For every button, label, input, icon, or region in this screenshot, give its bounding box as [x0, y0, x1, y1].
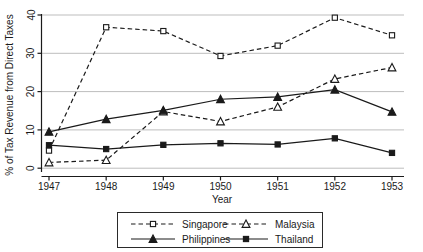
point-singapore-1951 [275, 43, 280, 48]
point-thailand-1950 [218, 141, 223, 146]
data-series-group [45, 15, 396, 166]
y-tick-label-0: 0 [26, 165, 37, 171]
y-tick-labels: 010203040 [26, 9, 37, 171]
point-singapore-1948 [104, 25, 109, 30]
x-tick-label-1953: 1953 [381, 181, 404, 192]
point-thailand-1951 [275, 142, 280, 147]
y-tick-label-40: 40 [26, 9, 37, 21]
point-thailand-1947 [46, 143, 51, 148]
y-tick-label-20: 20 [26, 86, 37, 98]
x-axis-title: Year [212, 194, 233, 205]
legend-label-malaysia: Malaysia [275, 219, 315, 230]
x-tick-label-1947: 1947 [38, 181, 61, 192]
point-thailand-1949 [161, 142, 166, 147]
point-thailand-1948 [104, 146, 109, 151]
point-singapore-1952 [332, 15, 337, 20]
x-tick-label-1948: 1948 [95, 181, 118, 192]
clipped-header-remnant [10, 0, 310, 4]
series-thailand [46, 136, 394, 156]
point-singapore-1947 [46, 148, 51, 153]
x-tick-label-1952: 1952 [324, 181, 347, 192]
legend-label-thailand: Thailand [275, 234, 313, 245]
point-thailand-1953 [389, 150, 394, 155]
point-singapore-1950 [218, 53, 223, 58]
point-malaysia-1953 [388, 63, 396, 70]
chart-figure: 010203040 1947194819491950195119521953 %… [0, 0, 423, 252]
legend-label-philippines: Philippines [182, 234, 230, 245]
y-tick-label-10: 10 [26, 124, 37, 136]
x-tick-marks [49, 177, 392, 181]
legend-marker-singapore [150, 221, 155, 226]
legend-marker-thailand [243, 236, 248, 241]
line-singapore [49, 18, 392, 151]
point-singapore-1953 [389, 33, 394, 38]
point-philippines-1952 [331, 86, 339, 93]
x-tick-labels: 1947194819491950195119521953 [38, 181, 404, 192]
point-thailand-1952 [332, 136, 337, 141]
point-philippines-1953 [388, 108, 396, 115]
chart-legend: SingaporeMalaysiaPhilippinesThailand [118, 213, 323, 248]
x-tick-label-1950: 1950 [209, 181, 232, 192]
legend-label-singapore: Singapore [182, 219, 228, 230]
point-singapore-1949 [161, 28, 166, 33]
series-singapore [46, 15, 394, 153]
x-tick-label-1949: 1949 [152, 181, 175, 192]
y-axis-title: % of Tax Revenue from Direct Taxes [4, 14, 15, 175]
x-tick-label-1951: 1951 [267, 181, 290, 192]
series-malaysia [45, 63, 396, 165]
y-tick-label-30: 30 [26, 47, 37, 59]
tax-revenue-line-chart: 010203040 1947194819491950195119521953 %… [0, 0, 423, 252]
series-philippines [45, 86, 396, 136]
point-malaysia-1951 [274, 103, 282, 110]
